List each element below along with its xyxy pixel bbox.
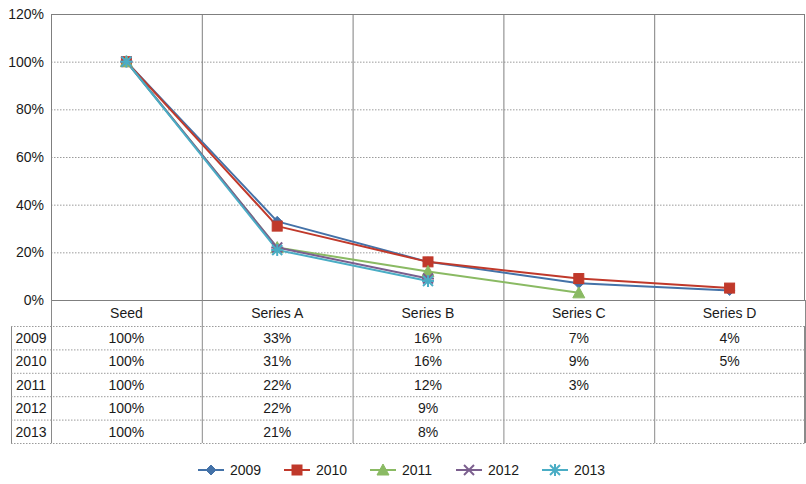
- data-point-2013-Series B: [422, 275, 434, 287]
- y-axis-tick-label: 0%: [24, 292, 44, 308]
- table-cell: 100%: [108, 400, 144, 416]
- table-cell: 8%: [418, 424, 438, 440]
- table-cell: 7%: [569, 330, 589, 346]
- y-axis-tick-label: 40%: [16, 197, 44, 213]
- legend-item-2013[interactable]: 2013: [542, 462, 605, 478]
- table-row-header: 2009: [15, 330, 46, 346]
- legend-label-2013: 2013: [574, 462, 605, 478]
- legend-label-2011: 2011: [402, 462, 432, 478]
- data-markers: [120, 56, 734, 298]
- legend-marker-2010: [292, 465, 302, 475]
- data-table: SeedSeries ASeries BSeries CSeries D2009…: [11, 300, 806, 444]
- legend-item-2012[interactable]: 2012: [456, 462, 519, 478]
- legend-marker-2009: [206, 465, 216, 475]
- legend-item-2009[interactable]: 2009: [198, 462, 261, 478]
- table-cell: 4%: [719, 330, 739, 346]
- table-column-header: Series C: [552, 305, 606, 321]
- table-cell: 100%: [108, 377, 144, 393]
- table-row-header: 2011: [16, 377, 46, 393]
- legend-label-2009: 2009: [230, 462, 261, 478]
- y-axis-tick-label: 20%: [16, 244, 44, 260]
- table-column-header: Series D: [703, 305, 757, 321]
- data-point-2010-Series A: [272, 221, 282, 231]
- data-point-2010-Series D: [725, 283, 735, 293]
- legend-label-2012: 2012: [488, 462, 519, 478]
- table-cell: 9%: [569, 353, 589, 369]
- y-axis-tick-label: 100%: [8, 54, 44, 70]
- table-row-header: 2013: [15, 424, 46, 440]
- data-point-2013-Series A: [271, 244, 283, 256]
- table-cell: 21%: [263, 424, 291, 440]
- table-cell: 9%: [418, 400, 438, 416]
- y-axis-tick-label: 80%: [16, 101, 44, 117]
- table-cell: 3%: [569, 377, 589, 393]
- legend-marker-2013: [549, 464, 561, 476]
- growth-retention-line-chart: 0%20%40%60%80%100%120% SeedSeries ASerie…: [0, 0, 806, 484]
- table-row-header: 2012: [15, 400, 46, 416]
- y-axis-tick-labels: 0%20%40%60%80%100%120%: [8, 6, 44, 308]
- table-cell: 100%: [108, 424, 144, 440]
- legend-label-2010: 2010: [316, 462, 347, 478]
- table-row-header: 2010: [15, 353, 46, 369]
- table-column-header: Series A: [251, 305, 304, 321]
- table-cell: 31%: [263, 353, 291, 369]
- table-cell: 12%: [414, 377, 442, 393]
- table-cell: 16%: [414, 330, 442, 346]
- legend-item-2010[interactable]: 2010: [284, 462, 347, 478]
- legend-item-2011[interactable]: 2011: [370, 462, 432, 478]
- table-cell: 100%: [108, 353, 144, 369]
- y-axis-tick-label: 120%: [8, 6, 44, 22]
- table-cell: 22%: [263, 400, 291, 416]
- legend-marker-2012: [463, 465, 475, 475]
- table-column-header: Seed: [110, 305, 143, 321]
- table-cell: 100%: [108, 330, 144, 346]
- chart-legend: 20092010201120122013: [198, 462, 605, 478]
- chart-container: 0%20%40%60%80%100%120% SeedSeries ASerie…: [0, 0, 806, 484]
- y-axis-tick-label: 60%: [16, 149, 44, 165]
- data-point-2013-Seed: [120, 56, 132, 68]
- table-column-header: Series B: [402, 305, 455, 321]
- data-point-2010-Series C: [574, 274, 584, 284]
- table-cell: 5%: [719, 353, 739, 369]
- table-cell: 22%: [263, 377, 291, 393]
- table-cell: 33%: [263, 330, 291, 346]
- table-cell: 16%: [414, 353, 442, 369]
